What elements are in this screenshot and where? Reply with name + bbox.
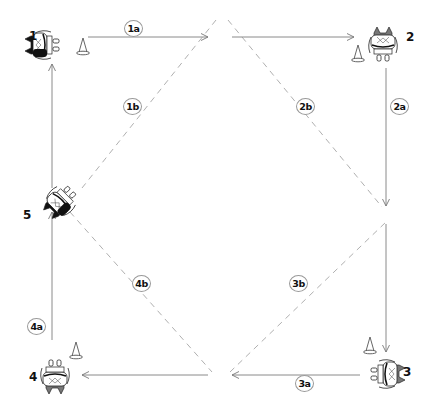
cone-icon — [352, 45, 365, 62]
player-5-figure — [38, 180, 82, 224]
step-label-4a: 4a — [27, 318, 46, 335]
cone-icon — [77, 38, 90, 55]
run-4b-line — [70, 212, 212, 372]
step-label-3b: 3b — [289, 275, 308, 292]
step-label-4b: 4b — [132, 275, 151, 292]
run-1b-line — [82, 20, 216, 188]
cones — [70, 38, 377, 359]
player-number-3: 3 — [403, 366, 411, 378]
run-3b-line — [230, 222, 386, 372]
player-number-2: 2 — [406, 31, 414, 43]
player-2-figure — [369, 27, 398, 61]
step-label-1a: 1a — [124, 20, 143, 37]
player-number-1: 1 — [29, 30, 37, 42]
players — [25, 27, 405, 394]
drill-diagram: 1 2 3 4 5 1a 1b 2b 2a 3b 4b 4a 3a — [0, 0, 435, 413]
step-label-3a: 3a — [295, 375, 314, 392]
drill-canvas — [0, 0, 435, 413]
step-label-2b: 2b — [296, 98, 315, 115]
player-4-figure — [41, 360, 70, 394]
cone-icon — [70, 342, 83, 359]
player-number-4: 4 — [29, 371, 37, 383]
step-label-1b: 1b — [123, 98, 142, 115]
dashed-runs — [70, 20, 386, 372]
player-3-figure — [371, 360, 405, 389]
player-number-5: 5 — [23, 209, 31, 221]
step-label-2a: 2a — [390, 98, 409, 115]
pass-arrows — [52, 37, 386, 375]
cone-icon — [364, 337, 377, 354]
